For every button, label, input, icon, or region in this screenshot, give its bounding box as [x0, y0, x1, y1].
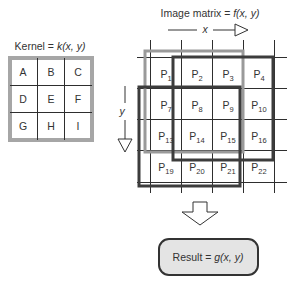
pixel-cell: P7 — [160, 99, 171, 114]
x-arrowhead-icon — [235, 24, 248, 36]
kernel-cell: I — [77, 120, 80, 132]
result-label: Result = g(x, y) — [173, 251, 244, 263]
pixel-cell: P16 — [251, 130, 266, 145]
y-arrowhead-icon — [118, 139, 132, 152]
result-box: Result = g(x, y) — [159, 239, 258, 275]
image-matrix-title: Image matrix = f(x, y) — [161, 7, 260, 19]
down-arrow-icon — [182, 202, 218, 225]
kernel-cell: A — [19, 66, 26, 78]
x-axis-label: x — [201, 23, 208, 35]
convolution-diagram: Kernel = k(x, y) A B C D E F G H I Image… — [0, 0, 292, 291]
y-axis-label: y — [118, 105, 125, 117]
kernel-cell: F — [75, 93, 81, 105]
pixel-cell: P19 — [158, 161, 173, 176]
pixel-cell: P22 — [251, 161, 266, 176]
pixel-cell: P1 — [160, 68, 171, 83]
pixel-cell: P2 — [191, 68, 202, 83]
kernel-cell: D — [19, 93, 27, 105]
pixel-cell: P13 — [158, 130, 173, 145]
kernel-title: Kernel = k(x, y) — [15, 40, 86, 52]
kernel-cell: B — [47, 66, 54, 78]
y-direction-arrow: y — [118, 86, 132, 152]
kernel-cell: G — [19, 120, 27, 132]
kernel-cell: H — [47, 120, 55, 132]
pixel-cell: P15 — [220, 130, 235, 145]
pixel-cell: P10 — [251, 99, 266, 114]
pixel-cell: P21 — [220, 161, 235, 176]
pixel-cell: P9 — [222, 99, 233, 114]
kernel-cell: C — [74, 66, 82, 78]
x-direction-arrow: x — [168, 23, 248, 36]
pixel-cell: P3 — [222, 68, 233, 83]
pixel-cell: P14 — [189, 130, 204, 145]
kernel-grid: A B C D E F G H I — [10, 58, 92, 140]
kernel-cell: E — [47, 93, 54, 105]
pixel-cell: P4 — [253, 68, 264, 83]
pixel-cell: P20 — [189, 161, 204, 176]
pixel-cell: P8 — [191, 99, 202, 114]
